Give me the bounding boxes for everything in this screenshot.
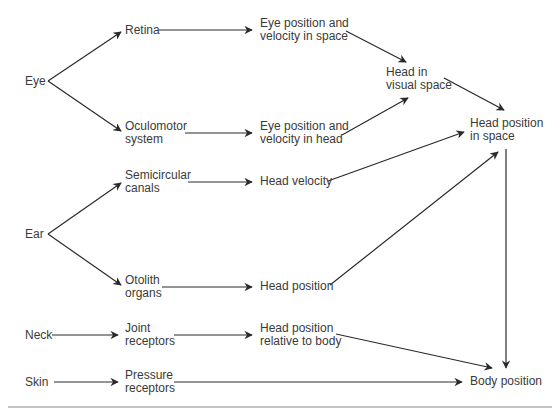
node-head-visual: Head in visual space xyxy=(386,66,452,92)
node-neck: Neck xyxy=(25,329,52,342)
node-ear: Ear xyxy=(25,228,44,241)
node-head-position-space: Head position in space xyxy=(470,117,543,143)
diagram-arrows xyxy=(0,0,560,415)
node-semicircular: Semicircular canals xyxy=(125,169,191,195)
node-otolith: Otolith organs xyxy=(125,274,162,300)
node-head-position: Head position xyxy=(260,280,333,293)
node-head-velocity: Head velocity xyxy=(260,175,332,188)
node-head-rel-body: Head position relative to body xyxy=(260,322,341,348)
node-skin: Skin xyxy=(25,376,48,389)
node-eye-head: Eye position and velocity in head xyxy=(260,120,349,146)
node-retina: Retina xyxy=(125,24,160,37)
node-oculomotor: Oculomotor system xyxy=(125,120,187,146)
node-eye: Eye xyxy=(25,75,46,88)
node-body-position: Body position xyxy=(470,375,542,388)
node-eye-space: Eye position and velocity in space xyxy=(260,17,349,43)
node-joint: Joint receptors xyxy=(125,322,175,348)
node-pressure: Pressure receptors xyxy=(125,369,175,395)
